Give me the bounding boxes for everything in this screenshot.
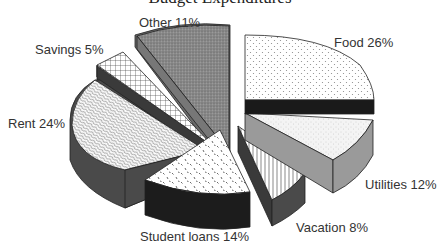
label-rent: Rent 24% (8, 117, 65, 130)
label-savings: Savings 5% (35, 43, 104, 56)
label-food: Food 26% (334, 36, 393, 49)
label-vacation: Vacation 8% (296, 221, 368, 234)
pie-chart: Budget Expenditures (0, 0, 440, 246)
label-utilities: Utilities 12% (365, 178, 437, 191)
label-student-loans: Student loans 14% (140, 230, 249, 243)
label-other: Other 11% (139, 16, 200, 29)
